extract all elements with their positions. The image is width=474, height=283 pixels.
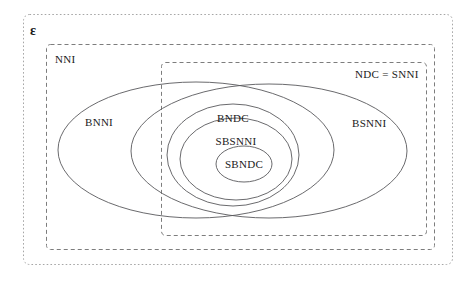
sbsnni-label: SBSNNI <box>216 135 257 147</box>
bndc-label: BNDC <box>217 112 249 124</box>
snni-label: NDC = SNNI <box>355 68 419 80</box>
bsnni-label: BSNNI <box>352 117 387 129</box>
nni-label: NNI <box>55 53 75 65</box>
universe-label: ε <box>30 23 36 38</box>
diagram-canvas: ε NNI NDC = SNNI BNNI BSNNI BNDC SBSNNI … <box>0 0 474 283</box>
bnni-label: BNNI <box>85 116 113 128</box>
euler-diagram: ε NNI NDC = SNNI BNNI BSNNI BNDC SBSNNI … <box>0 0 474 283</box>
sbndc-label: SBNDC <box>225 158 263 170</box>
